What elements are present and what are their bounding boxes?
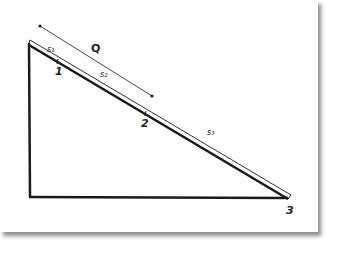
segment-label-s3: s₃ [207,128,214,137]
incline-line [29,45,288,199]
base-line [29,197,288,198]
inclined-plane-diagram: Q s₁ s₂ s₃ 1 2 3 [0,0,341,254]
point-label-1: 1 [55,65,63,78]
dimension-start-dot [38,24,41,27]
segment-label-s1: s₁ [47,45,54,54]
vertical-leg [29,43,30,197]
segment-label-s2: s₂ [100,70,108,79]
dimension-label-q: Q [91,42,100,55]
incline-rail [30,40,291,195]
dimension-end-dot [150,94,153,97]
point-label-3: 3 [286,204,294,217]
point-label-2: 2 [141,117,149,130]
